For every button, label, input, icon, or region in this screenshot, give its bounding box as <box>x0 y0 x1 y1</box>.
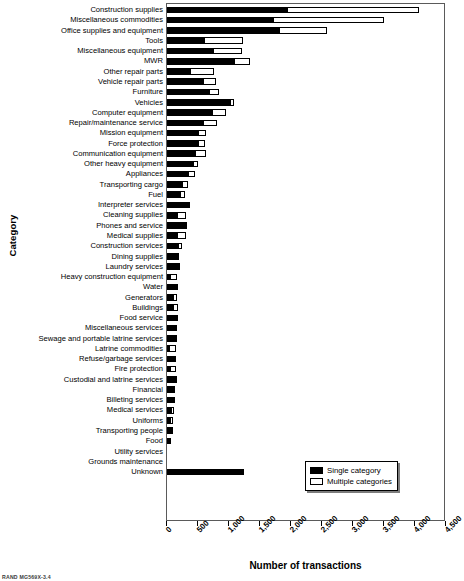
category-label: Food <box>0 437 166 445</box>
bar-track <box>166 364 441 374</box>
chart-row: Furniture <box>0 87 441 97</box>
category-label: Construction services <box>0 242 166 250</box>
stacked-bar <box>166 191 185 198</box>
chart-row: Transporting people <box>0 426 441 436</box>
x-axis-tick-label: 4,000 <box>412 514 433 535</box>
stacked-bar <box>166 37 243 44</box>
bar-segment-single-category <box>166 202 190 209</box>
stacked-bar <box>166 427 173 434</box>
stacked-bar <box>166 284 178 291</box>
bar-segment-single-category <box>166 191 180 198</box>
chart-row: Construction supplies <box>0 5 441 15</box>
chart-row: Interpreter services <box>0 200 441 210</box>
chart-row: MWR <box>0 56 441 66</box>
category-label: Utility services <box>0 448 166 456</box>
chart-row: Food <box>0 436 441 446</box>
bar-track <box>166 272 441 282</box>
bar-track <box>166 138 441 148</box>
stacked-bar <box>166 356 176 363</box>
bar-segment-single-category <box>166 458 167 465</box>
black-filled-square-icon <box>310 467 323 474</box>
category-label: Uniforms <box>0 417 166 425</box>
category-label: Furniture <box>0 88 166 96</box>
chart-row: Other repair parts <box>0 67 441 77</box>
bar-segment-multiple-categories <box>230 99 234 106</box>
stacked-bar <box>166 232 186 239</box>
bar-segment-single-category <box>166 315 178 322</box>
category-label: Communication equipment <box>0 150 166 158</box>
bar-segment-multiple-categories <box>209 89 218 96</box>
bar-segment-single-category <box>166 386 175 393</box>
chart-row: Miscellaneous services <box>0 323 441 333</box>
stacked-bar <box>166 243 182 250</box>
stacked-bar <box>166 366 176 373</box>
bar-segment-multiple-categories <box>188 171 195 178</box>
bar-segment-multiple-categories <box>203 78 215 85</box>
bar-track <box>166 375 441 385</box>
bar-segment-multiple-categories <box>180 191 185 198</box>
bar-track <box>166 190 441 200</box>
bar-track <box>166 446 441 456</box>
chart-row: Billeting services <box>0 395 441 405</box>
bar-track <box>166 46 441 56</box>
chart-row: Miscellaneous equipment <box>0 46 441 56</box>
chart-row: Cleaning supplies <box>0 210 441 220</box>
category-label: Buildings <box>0 304 166 312</box>
category-label: Office supplies and equipment <box>0 27 166 35</box>
bar-track <box>166 416 441 426</box>
bar-track <box>166 5 441 15</box>
category-label: Food service <box>0 314 166 322</box>
category-label: Laundry services <box>0 263 166 271</box>
chart-row: Construction services <box>0 241 441 251</box>
chart-row: Custodial and latrine services <box>0 375 441 385</box>
x-axis-tick-label: 1,500 <box>257 514 278 535</box>
category-label: Vehicles <box>0 99 166 107</box>
bar-track <box>166 241 441 251</box>
bar-track <box>166 231 441 241</box>
category-label: Vehicle repair parts <box>0 78 166 86</box>
bar-segment-single-category <box>166 438 171 445</box>
bar-segment-multiple-categories <box>177 253 179 260</box>
bar-track <box>166 67 441 77</box>
bar-segment-single-category <box>166 263 180 270</box>
chart-row: Computer equipment <box>0 108 441 118</box>
stacked-bar <box>166 253 179 260</box>
bar-segment-multiple-categories <box>198 140 205 147</box>
bar-segment-multiple-categories <box>169 345 176 352</box>
bar-track <box>166 118 441 128</box>
bar-track <box>166 262 441 272</box>
category-label: Fire protection <box>0 365 166 373</box>
chart-row: Food service <box>0 313 441 323</box>
bar-track <box>166 221 441 231</box>
stacked-bar <box>166 181 188 188</box>
bar-segment-multiple-categories <box>170 366 175 373</box>
bar-track <box>166 149 441 159</box>
chart-row: Phones and service <box>0 221 441 231</box>
bar-segment-single-category <box>166 325 175 332</box>
chart-row: Sewage and portable latrine services <box>0 334 441 344</box>
stacked-bar <box>166 130 206 137</box>
bar-track <box>166 385 441 395</box>
chart-row: Refuse/garbage services <box>0 354 441 364</box>
x-axis-tick-label: 2,000 <box>288 514 309 535</box>
bar-track <box>166 334 441 344</box>
chart-row: Buildings <box>0 303 441 313</box>
bar-track <box>166 457 441 467</box>
chart-row: Latrine commodities <box>0 344 441 354</box>
category-label: Medical supplies <box>0 232 166 240</box>
bar-segment-single-category <box>166 427 173 434</box>
bar-track <box>166 108 441 118</box>
bar-track <box>166 354 441 364</box>
legend: Single category Multiple categories <box>305 461 398 491</box>
chart-rows-container: Construction suppliesMiscellaneous commo… <box>0 5 441 477</box>
chart-row: Other heavy equipment <box>0 159 441 169</box>
legend-item: Single category <box>310 465 392 476</box>
chart-row: Utility services <box>0 446 441 456</box>
category-label: Transporting cargo <box>0 181 166 189</box>
bar-segment-single-category <box>166 376 175 383</box>
stacked-bar <box>166 263 180 270</box>
category-label: Unknown <box>0 468 166 476</box>
chart-row: Appliances <box>0 169 441 179</box>
bar-segment-single-category <box>166 150 195 157</box>
